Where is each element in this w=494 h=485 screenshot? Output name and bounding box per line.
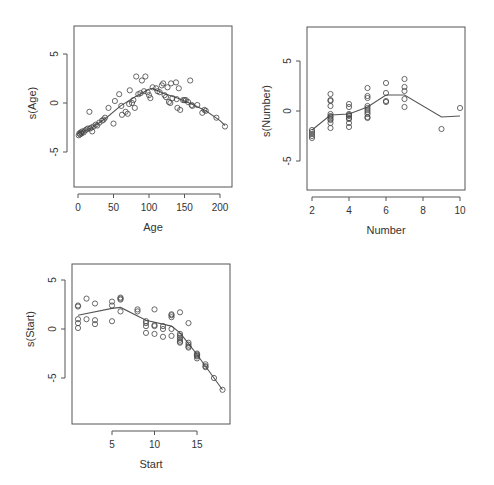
data-point xyxy=(92,322,97,327)
data-point xyxy=(109,303,114,308)
data-point xyxy=(222,124,227,129)
panel-number: 246810-505 Number s(Number) xyxy=(260,27,466,236)
data-point xyxy=(346,101,351,106)
data-point xyxy=(365,85,370,90)
x-tick-label: 100 xyxy=(141,202,158,213)
y-tick-label: 5 xyxy=(49,51,60,57)
data-point xyxy=(84,296,89,301)
data-point xyxy=(134,74,139,79)
data-point xyxy=(132,105,137,110)
data-point xyxy=(84,317,89,322)
data-point xyxy=(328,120,333,125)
axis-ticks: 050100150200-505 xyxy=(49,51,229,213)
data-point xyxy=(117,92,122,97)
data-point xyxy=(457,105,462,110)
data-point xyxy=(402,96,407,101)
data-point xyxy=(127,88,132,93)
data-point xyxy=(152,331,157,336)
data-point xyxy=(75,321,80,326)
data-point xyxy=(328,103,333,108)
data-point xyxy=(328,125,333,130)
x-tick-label: 6 xyxy=(383,205,389,216)
data-point xyxy=(160,334,165,339)
data-point xyxy=(168,100,173,105)
data-points xyxy=(309,76,462,140)
panel-start: 51015-505 Start s(Start) xyxy=(24,264,230,470)
panel-age: 050100150200-505 Age s(Age) xyxy=(26,26,232,233)
x-tick-label: 0 xyxy=(75,202,81,213)
smooth-curve xyxy=(78,307,223,389)
data-points xyxy=(76,74,228,138)
y-tick-label: 5 xyxy=(47,277,58,283)
x-tick-label: 10 xyxy=(149,439,161,450)
data-point xyxy=(118,309,123,314)
data-point xyxy=(173,80,178,85)
y-tick-label: -5 xyxy=(47,373,58,382)
data-point xyxy=(188,78,193,83)
x-tick-label: 10 xyxy=(454,205,466,216)
data-point xyxy=(169,333,174,338)
y-tick-label: 0 xyxy=(47,326,58,332)
y-tick-label: 0 xyxy=(49,100,60,106)
data-point xyxy=(106,105,111,110)
data-point xyxy=(402,76,407,81)
y-tick-label: 5 xyxy=(282,58,293,64)
figure: 050100150200-505 Age s(Age) 246810-505 N… xyxy=(0,0,494,485)
data-point xyxy=(346,124,351,129)
x-axis-label: Age xyxy=(143,221,163,233)
data-point xyxy=(402,104,407,109)
data-point xyxy=(186,321,191,326)
data-point xyxy=(143,74,148,79)
y-tick-label: -5 xyxy=(49,147,60,156)
data-point xyxy=(150,85,155,90)
data-point xyxy=(143,330,148,335)
y-tick-label: -5 xyxy=(282,156,293,165)
x-tick-label: 5 xyxy=(109,439,115,450)
data-point xyxy=(169,326,174,331)
x-tick-label: 50 xyxy=(108,202,120,213)
data-point xyxy=(328,91,333,96)
x-tick-label: 200 xyxy=(212,202,229,213)
data-point xyxy=(87,109,92,114)
data-point xyxy=(439,126,444,131)
data-point xyxy=(112,98,117,103)
x-axis-label: Start xyxy=(139,458,162,470)
x-tick-label: 2 xyxy=(309,205,315,216)
y-axis-label: s(Start) xyxy=(24,311,36,347)
data-point xyxy=(402,88,407,93)
data-point xyxy=(109,319,114,324)
data-points xyxy=(75,295,225,392)
x-tick-label: 8 xyxy=(420,205,426,216)
data-point xyxy=(177,310,182,315)
data-point xyxy=(111,121,116,126)
plot-frame xyxy=(72,264,230,424)
data-point xyxy=(346,104,351,109)
data-point xyxy=(127,101,132,106)
x-tick-label: 15 xyxy=(191,439,203,450)
x-tick-label: 150 xyxy=(176,202,193,213)
x-axis-label: Number xyxy=(366,224,405,236)
x-tick-label: 4 xyxy=(346,205,352,216)
y-axis-label: s(Age) xyxy=(26,87,38,119)
y-tick-label: 0 xyxy=(282,108,293,114)
data-point xyxy=(143,324,148,329)
data-point xyxy=(383,80,388,85)
data-point xyxy=(119,112,124,117)
data-point xyxy=(92,301,97,306)
plot-frame xyxy=(74,26,232,187)
data-point xyxy=(152,307,157,312)
data-point xyxy=(168,81,173,86)
y-axis-label: s(Number) xyxy=(260,85,272,137)
data-point xyxy=(176,86,181,91)
smooth-curve xyxy=(312,95,460,130)
data-point xyxy=(75,325,80,330)
